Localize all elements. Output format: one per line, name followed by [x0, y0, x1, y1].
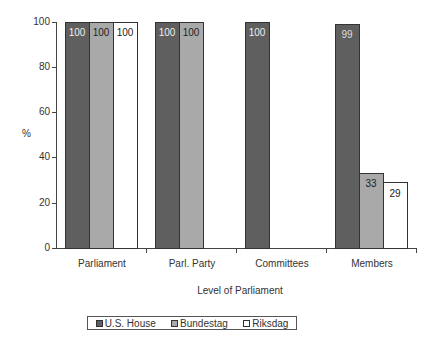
x-tick: [416, 248, 417, 253]
legend-swatch: [243, 320, 250, 327]
y-tick: [52, 67, 57, 68]
y-tick-label: 40: [20, 151, 50, 162]
y-tick: [52, 248, 57, 249]
bar-us-house-committees: [245, 22, 270, 249]
y-tick-label: 60: [20, 106, 50, 117]
bar-value: 100: [65, 27, 89, 38]
bar-value: 100: [113, 27, 137, 38]
y-tick: [52, 157, 57, 158]
legend: U.S. House Bundestag Riksdag: [87, 316, 297, 330]
bar-value: 100: [245, 27, 269, 38]
legend-item-us-house: U.S. House: [96, 318, 156, 329]
y-axis: [56, 22, 57, 249]
bar-us-house-members: [335, 24, 360, 249]
x-axis-title: Level of Parliament: [140, 285, 340, 296]
legend-swatch: [171, 320, 178, 327]
x-category-label: Parliament: [57, 258, 147, 269]
x-tick: [326, 248, 327, 253]
bar-value: 100: [179, 27, 203, 38]
bar-value: 100: [89, 27, 113, 38]
bar-us-house-parl-party: [155, 22, 180, 249]
y-tick-label: 0: [20, 242, 50, 253]
y-tick-label: 20: [20, 197, 50, 208]
y-tick: [52, 22, 57, 23]
x-tick: [236, 248, 237, 253]
x-tick: [146, 248, 147, 253]
x-category-label: Members: [327, 258, 417, 269]
x-category-label: Parl. Party: [147, 258, 237, 269]
bar-us-house-parliament: [65, 22, 90, 249]
y-tick-label: 80: [20, 61, 50, 72]
y-tick-label: 100: [20, 16, 50, 27]
bar-bundestag-parl-party: [179, 22, 204, 249]
y-tick: [52, 203, 57, 204]
legend-label: Bundestag: [180, 318, 228, 329]
x-category-label: Committees: [237, 258, 327, 269]
y-axis-title: %: [22, 128, 31, 139]
bar-value: 29: [383, 188, 407, 199]
bar-bundestag-parliament: [89, 22, 114, 249]
legend-swatch: [96, 320, 103, 327]
y-tick: [52, 112, 57, 113]
legend-label: U.S. House: [105, 318, 156, 329]
legend-item-bundestag: Bundestag: [171, 318, 228, 329]
legend-label: Riksdag: [252, 318, 288, 329]
bar-riksdag-parliament: [113, 22, 138, 249]
bar-value: 33: [359, 178, 383, 189]
legend-item-riksdag: Riksdag: [243, 318, 288, 329]
bar-value: 99: [335, 29, 359, 40]
bar-value: 100: [155, 27, 179, 38]
